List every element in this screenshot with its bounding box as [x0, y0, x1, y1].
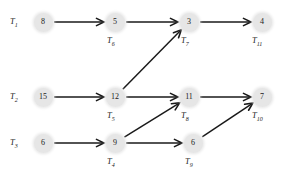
node-t8[interactable]: 11: [180, 88, 199, 107]
task-dependency-diagram: T1T2T385T63T74T111512T511T87T1069T46T9: [0, 0, 287, 179]
node-t4-label: T4: [107, 157, 115, 168]
edge-t5-t7: [123, 30, 182, 89]
node-t10[interactable]: 7: [253, 88, 272, 107]
edge-t7-t11: [200, 18, 251, 25]
node-t4[interactable]: 9: [106, 134, 125, 153]
node-t9[interactable]: 6: [184, 134, 203, 153]
node-t8-label: T8: [181, 111, 189, 122]
row-label-t3: T3: [10, 138, 18, 149]
node-t3[interactable]: 6: [34, 134, 53, 153]
node-t5[interactable]: 12: [106, 88, 125, 107]
edge-t2-t5: [54, 93, 104, 100]
node-t6-label: T6: [107, 36, 115, 47]
node-t5-label: T5: [107, 111, 115, 122]
edge-t8-t10: [200, 93, 251, 100]
node-t10-label: T10: [252, 111, 263, 122]
edge-t4-t8: [124, 103, 179, 137]
edge-t6-t7: [126, 18, 178, 25]
edge-t5-t8: [126, 93, 178, 100]
node-t9-label: T9: [185, 157, 193, 168]
edge-t1-t6: [54, 18, 104, 25]
edge-t9-t10: [202, 103, 253, 137]
row-label-t1: T1: [10, 17, 18, 28]
node-t1[interactable]: 8: [34, 13, 53, 32]
row-label-t2: T2: [10, 92, 18, 103]
node-t2[interactable]: 15: [34, 88, 53, 107]
edge-t4-t9: [126, 139, 182, 146]
node-t11-label: T11: [252, 36, 262, 47]
node-t11[interactable]: 4: [253, 13, 272, 32]
node-t7-label: T7: [181, 36, 189, 47]
node-t7[interactable]: 3: [180, 13, 199, 32]
node-t6[interactable]: 5: [106, 13, 125, 32]
edge-t3-t4: [54, 139, 104, 146]
